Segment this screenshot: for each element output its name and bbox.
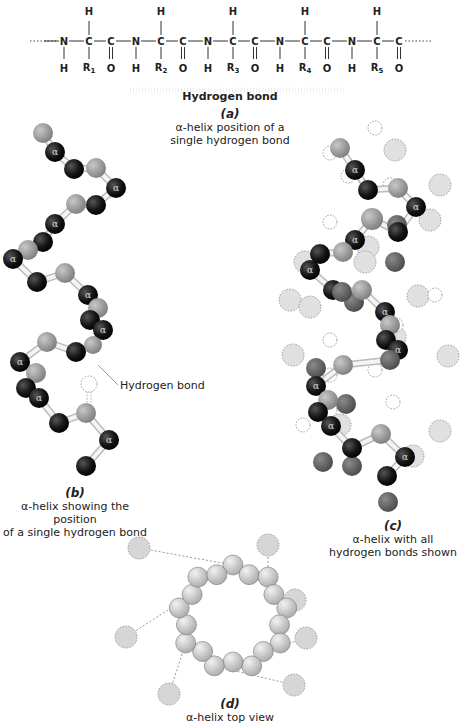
alpha-carbon-atom: [86, 195, 106, 215]
alpha-label: α: [307, 265, 313, 275]
alpha-carbon-atom: [358, 180, 378, 200]
nitrogen-atom: [306, 358, 326, 378]
alpha-carbon-atom: [342, 438, 362, 458]
caption-c-line1: α-helix with all: [353, 533, 434, 546]
carbonyl-atom: [388, 178, 408, 198]
hydrogen-atom: H: [60, 63, 68, 74]
alpha-carbon-atom: C: [229, 36, 236, 47]
helix-single-hbond: ααααααααα: [3, 123, 126, 476]
alpha-label: α: [36, 393, 42, 403]
backbone-atom: [207, 565, 227, 585]
panel-letter-a: (a): [120, 108, 340, 121]
caption-c-line2: hydrogen bonds shown: [329, 546, 457, 559]
hbond-label-a: Hydrogen bond: [130, 90, 330, 103]
alpha-label: α: [106, 435, 112, 445]
hydrogen-atom: H: [373, 6, 381, 17]
caption-a-line2: single hydrogen bond: [170, 134, 289, 147]
nitrogen-atom: N: [204, 36, 212, 47]
oxygen-atom: O: [395, 63, 404, 74]
hydrogen-atom: [257, 534, 279, 556]
oxygen-atom: O: [179, 63, 188, 74]
hydrogen-atom: [128, 537, 150, 559]
nitrogen-atom: [313, 452, 333, 472]
carbonyl-atom: [55, 263, 75, 283]
alpha-label: α: [402, 452, 408, 462]
carbonyl-atom: [76, 403, 96, 423]
r-group: R2: [155, 62, 168, 75]
caption-b: (b) α-helix showing the position of a si…: [0, 487, 150, 539]
carbonyl-atom: [86, 158, 106, 178]
hydrogen-atom: [429, 420, 451, 442]
nitrogen-atom: N: [348, 36, 356, 47]
alpha-carbon-atom: C: [373, 36, 380, 47]
hydrogen-atom: [299, 296, 321, 318]
caption-c: (c) α-helix with all hydrogen bonds show…: [320, 520, 466, 559]
alpha-carbon-atom: [64, 159, 84, 179]
alpha-carbon-atom: [377, 466, 397, 486]
carbonyl-carbon-atom: C: [107, 36, 114, 47]
carbonyl-atom: [66, 194, 86, 214]
carbonyl-atom: [352, 280, 372, 300]
alpha-label: α: [313, 381, 319, 391]
panel-letter-b: (b): [0, 487, 150, 500]
helix-all-hbonds: ααααααααα: [279, 121, 459, 512]
hydrogen-atom: H: [276, 63, 284, 74]
peptide-chain: NHCHR1CONHCHR2CONHCHR3CONHCHR4CONHCHR5CO: [30, 6, 432, 91]
hydrogen-atom: [354, 251, 376, 273]
hydrogen-atom: H: [301, 6, 309, 17]
hydrogen-atom: H: [157, 6, 165, 17]
r-group: R1: [83, 62, 96, 75]
carbonyl-carbon-atom: C: [323, 36, 330, 47]
alpha-label: α: [52, 147, 58, 157]
hydrogen-atom: H: [229, 6, 237, 17]
alpha-carbon-atom: [49, 413, 69, 433]
oxygen-atom: O: [323, 63, 332, 74]
panel-letter-d: (d): [130, 698, 330, 711]
carbonyl-carbon-atom: C: [395, 36, 402, 47]
alpha-label: α: [113, 183, 119, 193]
hydrogen-atom: H: [348, 63, 356, 74]
caption-a: (a) α-helix position of a single hydroge…: [120, 108, 340, 147]
hydrogen-atom: [428, 288, 442, 302]
helix-top-view: [115, 534, 317, 705]
hydrogen-atom: [81, 376, 97, 392]
oxygen-atom: O: [251, 63, 260, 74]
r-group: R3: [227, 62, 240, 75]
alpha-carbon-atom: [76, 456, 96, 476]
hydrogen-atom: H: [85, 6, 93, 17]
hydrogen-atom: [384, 139, 406, 161]
alpha-label: α: [52, 219, 58, 229]
backbone-atom: [239, 565, 259, 585]
backbone-atom: [176, 633, 196, 653]
alpha-label: α: [352, 235, 358, 245]
hydrogen-atom: [279, 289, 301, 311]
panel-letter-c: (c): [320, 520, 466, 533]
nitrogen-atom: [385, 252, 405, 272]
alpha-carbon-atom: C: [85, 36, 92, 47]
alpha-label: α: [352, 165, 358, 175]
backbone-atom: [270, 615, 290, 635]
hydrogen-atom: [386, 395, 400, 409]
alpha-carbon-atom: [66, 342, 86, 362]
alpha-label: α: [17, 357, 23, 367]
caption-d-line1: α-helix top view: [186, 711, 274, 724]
hydrogen-atom: H: [204, 63, 212, 74]
backbone-atom: [182, 585, 202, 605]
carbonyl-carbon-atom: C: [179, 36, 186, 47]
alpha-label: α: [10, 254, 16, 264]
carbonyl-carbon-atom: C: [251, 36, 258, 47]
oxygen-atom: O: [107, 63, 116, 74]
alpha-carbon-atom: C: [157, 36, 164, 47]
backbone-atom: [258, 567, 278, 587]
hydrogen-atom: [115, 626, 137, 648]
caption-b-line1: α-helix showing the position: [21, 500, 129, 526]
nitrogen-atom: [336, 394, 356, 414]
carbonyl-atom: [371, 424, 391, 444]
hydrogen-atom: [368, 121, 382, 135]
hydrogen-atom: [296, 418, 310, 432]
hydrogen-atom: [429, 174, 451, 196]
hydrogen-atom: H: [132, 63, 140, 74]
backbone-atom: [223, 652, 243, 672]
hydrogen-atom: [437, 345, 459, 367]
hydrogen-atom: [323, 215, 337, 229]
